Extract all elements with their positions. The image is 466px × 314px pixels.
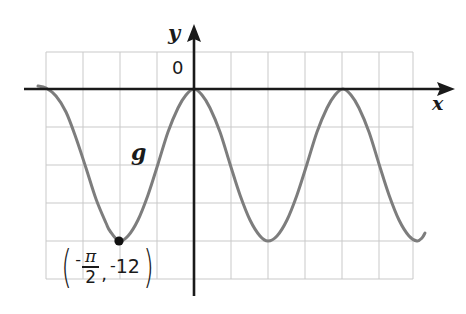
- minimum-point-marker: [114, 236, 123, 245]
- graph-figure: y x 0 g ( - π 2 , -12 ): [0, 0, 466, 314]
- y-value: -12: [110, 257, 140, 276]
- x-axis: [24, 82, 455, 96]
- point-coordinate-annotation: ( - π 2 , -12 ): [58, 248, 157, 286]
- x-value-fraction: π 2: [82, 248, 99, 286]
- x-axis-label: x: [432, 94, 443, 113]
- open-paren: (: [61, 250, 72, 284]
- y-axis: [187, 24, 201, 296]
- y-axis-label: y: [168, 22, 180, 43]
- coordinate-comma: ,: [101, 265, 107, 283]
- origin-label: 0: [172, 59, 183, 77]
- fraction-denominator: 2: [82, 268, 99, 286]
- fraction-numerator-pi: π: [82, 248, 99, 266]
- curve-label-g: g: [131, 141, 146, 163]
- close-paren: ): [143, 250, 154, 284]
- y-value-number: 12: [116, 255, 140, 277]
- x-negative-sign: -: [75, 252, 81, 268]
- y-minus-sign: -: [110, 256, 116, 275]
